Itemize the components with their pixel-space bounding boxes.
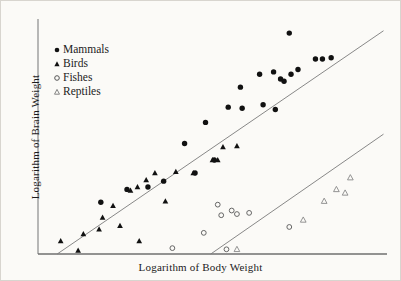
legend: Mammals Birds Fishes Reptiles [51, 43, 161, 99]
open-circle-icon [51, 73, 63, 83]
data-point [100, 215, 106, 220]
data-point [287, 30, 292, 35]
legend-label-reptiles: Reptiles [63, 85, 101, 98]
data-point [234, 246, 240, 251]
data-point [58, 238, 64, 243]
legend-label-mammals: Mammals [63, 43, 109, 56]
lower-regression-line [211, 134, 384, 254]
series-fishes [170, 202, 292, 251]
scatter-plot-figure: Mammals Birds Fishes Reptiles Logarithm … [0, 0, 401, 281]
data-point [229, 208, 234, 213]
data-point [287, 225, 292, 230]
data-point [334, 186, 340, 191]
data-point [281, 79, 286, 84]
data-point [328, 55, 333, 60]
data-point [163, 198, 169, 203]
data-point [220, 144, 226, 149]
data-point [170, 246, 175, 251]
legend-item-reptiles: Reptiles [51, 85, 161, 98]
data-point [271, 69, 276, 74]
legend-item-birds: Birds [51, 57, 161, 70]
data-point [273, 107, 278, 112]
data-point [143, 177, 149, 182]
data-point [313, 56, 318, 61]
data-point [320, 56, 325, 61]
data-point [224, 247, 229, 252]
data-point [98, 200, 103, 205]
data-point [239, 106, 244, 111]
data-point [182, 141, 187, 146]
open-triangle-icon [51, 87, 63, 97]
data-point [75, 247, 81, 252]
data-point [257, 72, 262, 77]
legend-item-fishes: Fishes [51, 71, 161, 84]
data-point [342, 190, 348, 195]
data-point [117, 223, 123, 228]
legend-label-fishes: Fishes [63, 71, 92, 84]
data-point [348, 175, 354, 180]
data-point [321, 198, 327, 203]
data-point [81, 231, 87, 236]
legend-label-birds: Birds [63, 57, 88, 70]
data-point [226, 104, 231, 109]
y-axis-title: Logarithm of Brain Weight [29, 37, 41, 237]
data-point [288, 72, 293, 77]
x-axis-title: Logarithm of Body Weight [1, 261, 400, 273]
data-point [161, 178, 166, 183]
data-point [136, 238, 142, 243]
data-point [300, 217, 306, 222]
data-point [215, 202, 220, 207]
legend-item-mammals: Mammals [51, 43, 161, 56]
data-point [219, 213, 224, 218]
data-point [145, 184, 150, 189]
data-point [295, 67, 300, 72]
data-point [201, 230, 206, 235]
data-point [247, 210, 252, 215]
data-point [203, 120, 208, 125]
data-point [234, 143, 240, 148]
data-point [110, 203, 116, 208]
filled-triangle-icon [51, 59, 63, 69]
filled-circle-icon [51, 45, 63, 55]
data-point [260, 102, 265, 107]
data-point [238, 84, 243, 89]
data-point [235, 212, 240, 217]
data-point [135, 184, 141, 189]
data-point [152, 170, 158, 175]
series-birds [58, 143, 240, 253]
